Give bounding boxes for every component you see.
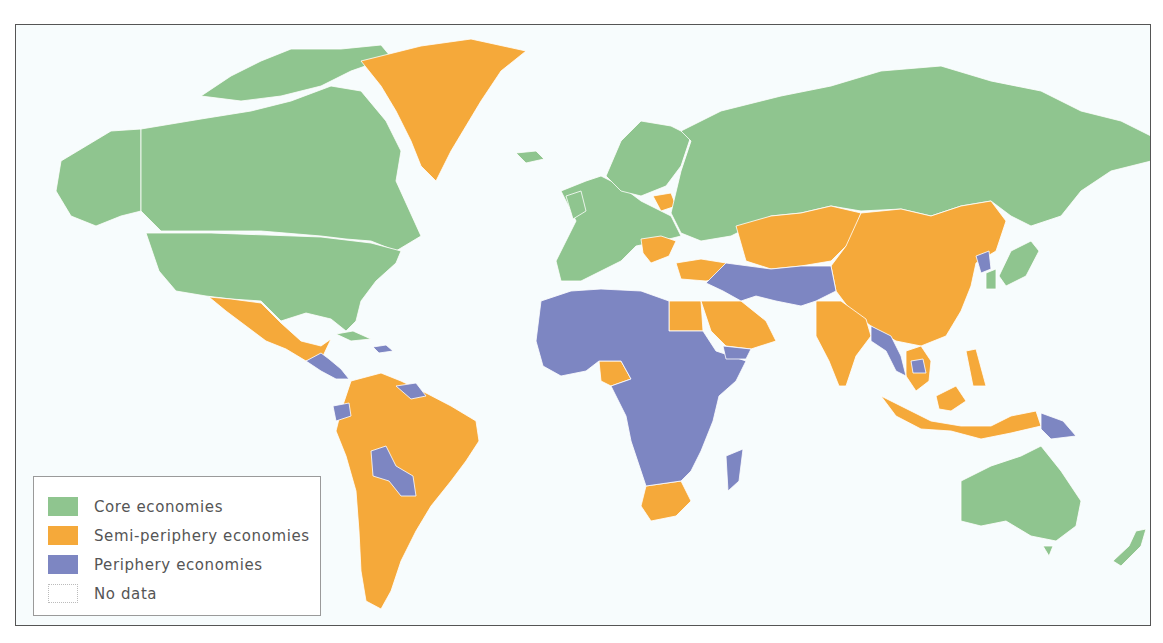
- legend-item-semi-periphery: Semi-periphery economies: [48, 521, 320, 550]
- map-legend: Core economies Semi-periphery economies …: [33, 476, 321, 616]
- region-south-korea: [986, 269, 996, 289]
- region-iceland: [516, 151, 544, 163]
- legend-item-periphery: Periphery economies: [48, 550, 320, 579]
- region-canada: [141, 86, 421, 251]
- region-cambodia: [911, 359, 926, 373]
- legend-item-no-data: No data: [48, 579, 320, 608]
- region-madagascar: [726, 449, 743, 491]
- region-australia: [961, 446, 1081, 541]
- region-balkans: [641, 236, 676, 263]
- core-swatch: [48, 497, 78, 516]
- region-hispaniola: [373, 345, 393, 353]
- region-egypt: [669, 301, 703, 331]
- legend-item-core: Core economies: [48, 492, 320, 521]
- region-cuba: [336, 331, 371, 341]
- legend-label: No data: [94, 585, 157, 603]
- region-south-africa: [641, 481, 691, 521]
- region-tasmania: [1043, 546, 1053, 556]
- region-borneo: [936, 386, 966, 411]
- legend-label: Periphery economies: [94, 556, 263, 574]
- legend-label: Semi-periphery economies: [94, 527, 310, 545]
- region-japan: [999, 241, 1039, 286]
- region-papua-new-guinea: [1041, 413, 1076, 439]
- no-data-swatch: [48, 584, 78, 603]
- region-new-zealand: [1113, 529, 1146, 566]
- legend-label: Core economies: [94, 498, 223, 516]
- semi-periphery-swatch: [48, 526, 78, 545]
- region-middle-east-periphery: [706, 263, 836, 306]
- region-arabia: [701, 301, 776, 349]
- periphery-swatch: [48, 555, 78, 574]
- region-alaska: [56, 129, 141, 226]
- region-western-europe: [556, 176, 681, 281]
- region-philippines: [966, 349, 986, 386]
